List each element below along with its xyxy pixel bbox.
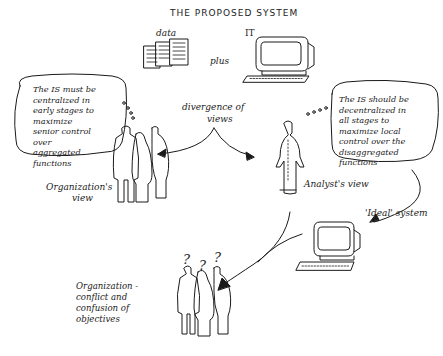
divergence-arrows [158, 128, 252, 156]
org-bubble-line: functions [33, 158, 96, 169]
ideal-computer-icon [296, 222, 360, 270]
outcome-line: conflict and [76, 292, 138, 303]
org-bubble-line: senior control [33, 126, 96, 137]
documents-icon [144, 39, 188, 68]
analyst-bubble-line: disaggregated [339, 147, 409, 158]
question-mark: ? [183, 252, 190, 267]
analyst-bubble-text: The IS should be decentralized in all st… [339, 94, 409, 168]
arrow-head-right [246, 152, 254, 160]
analyst-view-label: Analyst's view [304, 179, 369, 189]
org-bubble-line: aggregated [33, 147, 96, 158]
organization-bubble-text: The IS must be centralized in early stag… [33, 84, 96, 168]
analyst-bubble-line: all stages to [339, 115, 409, 126]
organization-view-label-1: Organization's [46, 182, 112, 192]
plus-label: plus [210, 56, 229, 66]
outcome-line: confusion of [76, 303, 138, 314]
arrow-head-left [158, 149, 166, 157]
computer-icon [243, 37, 314, 82]
analyst-figure [276, 121, 304, 194]
analyst-bubble-line: The IS should be [339, 94, 409, 105]
diagram-title: THE PROPOSED SYSTEM [170, 8, 298, 18]
confused-figures [177, 266, 230, 336]
it-label: IT [245, 28, 255, 38]
diagram-canvas [0, 0, 443, 356]
question-mark: ? [214, 250, 221, 265]
outcome-label: Organization - conflict and confusion of… [76, 281, 138, 325]
org-bubble-line: The IS must be [33, 84, 96, 95]
ideal-system-label: 'Ideal' system [365, 208, 428, 218]
analyst-bubble-line: control over the [339, 136, 409, 147]
data-label: data [156, 28, 176, 38]
divergence-line-2: views [207, 114, 233, 124]
org-bubble-line: over [33, 137, 96, 148]
divergence-line-1: divergence of [182, 102, 244, 112]
outcome-line: objectives [76, 314, 138, 325]
org-bubble-line: early stages to [33, 105, 96, 116]
org-bubble-line: centralized in [33, 95, 96, 106]
analyst-bubble-line: functions [339, 157, 409, 168]
organization-figures [113, 126, 168, 202]
question-mark: ? [199, 258, 206, 273]
outcome-line: Organization - [76, 281, 138, 292]
analyst-bubble-line: decentralized in [339, 105, 409, 116]
analyst-bubble-line: maximize local [339, 126, 409, 137]
organization-view-label-2: view [72, 193, 93, 203]
org-bubble-line: maximize [33, 116, 96, 127]
converge-arrow [224, 212, 290, 284]
